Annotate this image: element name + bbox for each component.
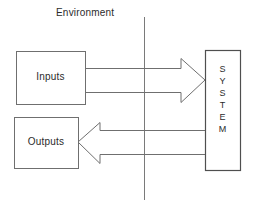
environment-label: Environment [56,7,114,18]
system-letter-y: Y [219,76,225,87]
system-letter-m: M [219,124,227,135]
system-letter-e: E [219,112,225,123]
system-letter-s2: S [219,88,225,99]
inputs-label: Inputs [16,71,85,82]
system-letter-s1: S [219,64,225,75]
system-to-outputs-arrow[interactable] [78,123,205,164]
system-label: S Y S T E M [205,64,240,135]
diagram-canvas: Environment Inputs Outputs S Y S T E M [0,0,268,210]
system-letter-t: T [220,100,226,111]
outputs-label: Outputs [14,136,78,147]
